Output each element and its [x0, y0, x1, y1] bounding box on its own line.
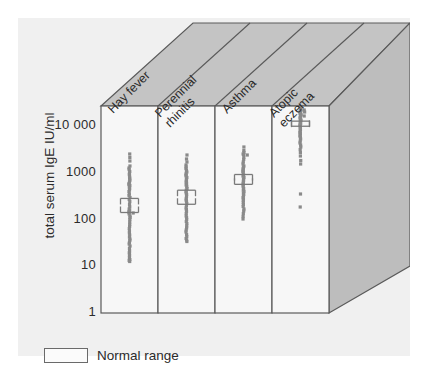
data-point — [242, 145, 245, 148]
figure-root: 10 000 1000 100 10 1 total serum IgE IU/… — [0, 0, 428, 374]
data-point — [128, 156, 131, 159]
data-point — [299, 159, 302, 162]
data-point — [299, 205, 302, 208]
data-point — [185, 157, 188, 160]
ytick-label-1: 1 — [14, 304, 96, 319]
data-point — [185, 153, 188, 156]
legend-swatch-normal-range — [44, 348, 88, 363]
data-point — [246, 153, 249, 156]
data-point — [299, 192, 302, 195]
data-point — [303, 114, 306, 117]
data-point — [128, 152, 131, 155]
chart-plate: 10 000 1000 100 10 1 total serum IgE IU/… — [18, 18, 410, 356]
legend: Normal range — [44, 348, 179, 363]
data-point — [299, 148, 302, 151]
data-point — [299, 151, 302, 154]
data-point — [128, 260, 131, 263]
data-point — [242, 153, 245, 156]
data-point — [242, 212, 245, 215]
data-point — [185, 240, 188, 243]
data-point — [299, 154, 302, 157]
y-axis-title: total serum IgE IU/ml — [42, 81, 57, 271]
data-point — [241, 217, 244, 220]
legend-label-normal-range: Normal range — [97, 348, 179, 363]
data-point — [128, 200, 131, 203]
data-point — [128, 159, 131, 162]
data-point — [185, 160, 188, 163]
data-point — [299, 162, 302, 165]
